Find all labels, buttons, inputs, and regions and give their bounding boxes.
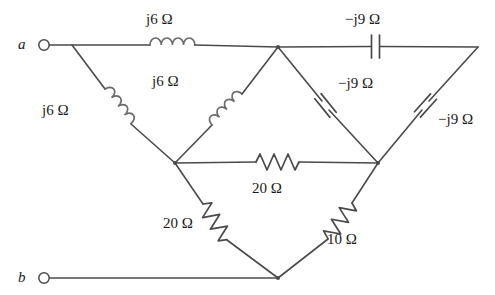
inner-inductor-label: j6 Ω	[152, 74, 179, 89]
wire-inner-capacitor-to-rightmid	[329, 110, 378, 163]
top-inductor-symbol	[150, 38, 278, 47]
terminal-a-group	[39, 40, 150, 50]
junction-bottom	[276, 276, 280, 280]
terminal-a-node[interactable]	[39, 40, 49, 50]
wire-top-inductor-to-topmid	[195, 45, 278, 47]
left-inductor-symbol	[72, 45, 175, 163]
junction-right-mid	[376, 161, 380, 165]
inner-capacitor-symbol	[278, 47, 378, 163]
wire-right-capacitor-to-rightmid	[378, 110, 422, 163]
right-resistor-symbol	[278, 163, 378, 278]
middle-resistor-label: 20 Ω	[252, 181, 282, 196]
middle-resistor-zigzag	[256, 154, 299, 170]
wire-left-inductor-to-leftmid	[131, 124, 175, 163]
inner-inductor-symbol	[175, 47, 278, 163]
left-resistor-label: 20 Ω	[163, 216, 193, 231]
wire-rightmid-to-right-resistor	[352, 163, 378, 203]
terminal-b-group	[39, 273, 278, 283]
wire-leftmid-to-inner-inductor	[175, 125, 212, 163]
left-inductor-coil	[105, 85, 137, 124]
top-inductor-label: j6 Ω	[146, 12, 173, 27]
right-resistor-label: 10 Ω	[327, 232, 357, 247]
left-resistor-zigzag	[196, 200, 233, 245]
wire-leftmid-to-left-resistor	[175, 163, 203, 204]
schematic-canvas	[0, 0, 495, 295]
top-inductor-coil	[150, 38, 195, 45]
top-capacitor-label: −j9 Ω	[345, 12, 380, 27]
wire-topmid-to-inner-capacitor	[278, 47, 322, 101]
right-capacitor-label: −j9 Ω	[438, 112, 473, 127]
wire-leftmid-to-middle-resistor	[175, 162, 256, 163]
middle-resistor-symbol	[175, 154, 378, 170]
top-capacitor-symbol	[278, 35, 478, 58]
wire-topmid-to-top-capacitor	[278, 47, 371, 48]
right-capacitor-symbol	[378, 47, 478, 163]
wire-inner-inductor-to-topmid	[242, 47, 278, 94]
inner-capacitor-label: −j9 Ω	[338, 76, 373, 91]
junction-left-mid	[173, 161, 177, 165]
terminal-a-label: a	[18, 37, 26, 52]
wire-left-resistor-to-bottom	[227, 240, 278, 278]
circuit-diagram: a b j6 Ω −j9 Ω j6 Ω j6 Ω −j9 Ω −j9 Ω 20 …	[0, 0, 495, 295]
inner-inductor-coil	[207, 89, 242, 125]
wire-right-resistor-to-bottom	[278, 239, 328, 278]
wire-top-capacitor-to-topright	[380, 47, 478, 48]
junction-top-mid	[276, 45, 280, 49]
terminal-b-node[interactable]	[39, 273, 49, 283]
terminal-b-label: b	[18, 270, 26, 285]
left-inductor-label: j6 Ω	[42, 103, 69, 118]
wire-a-to-left-inductor	[72, 45, 105, 89]
wire-topright-to-right-capacitor	[429, 47, 478, 101]
wire-middle-resistor-to-rightmid	[299, 162, 378, 163]
